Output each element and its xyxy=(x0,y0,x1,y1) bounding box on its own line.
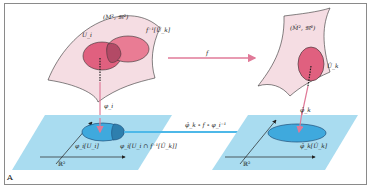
chart-domain-uk xyxy=(298,47,324,81)
transition-map-label: φ̂_k ∘ f ∘ φ_i⁻¹ xyxy=(185,122,226,128)
image-phi-uk-label: φ̂_k[Û_k] xyxy=(300,143,327,149)
chart-domain-ui-label: U_i xyxy=(82,32,92,38)
image-phi-ui-label: φ_i[U_i] xyxy=(75,143,99,149)
right-manifold-label: (M̂², 𝔐̂²) xyxy=(290,25,315,31)
left-manifold-label: (M², 𝔐²) xyxy=(103,14,128,20)
preimage-label: f⁻¹[Û_k] xyxy=(146,27,170,33)
left-plane-label: ℝ² xyxy=(58,161,65,167)
image-intersection-label: φ_i[U_i ∩ f⁻¹[Û_k]] xyxy=(120,143,177,149)
map-f-label: f xyxy=(206,50,208,56)
image-phi-uk xyxy=(268,124,326,142)
panel-letter: A xyxy=(7,174,13,182)
right-plane-r2 xyxy=(212,115,358,170)
chart-map-right-label: φ̂_k xyxy=(300,107,311,113)
chart-map-left-label: φ_i xyxy=(104,103,113,109)
right-plane-label: ℝ² xyxy=(243,161,250,167)
chart-domain-uk-label: Û_k xyxy=(327,63,339,69)
